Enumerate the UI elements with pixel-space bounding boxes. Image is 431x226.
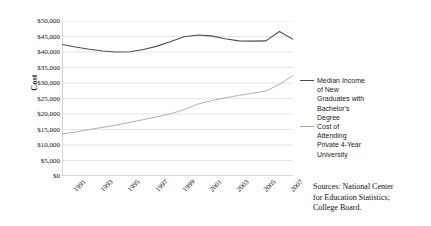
y-axis-tick-label: $15,000 <box>26 126 60 134</box>
x-axis-tick-label: 1995 <box>126 178 142 194</box>
x-axis-tick-label: 1997 <box>154 178 170 194</box>
x-axis-tick-label: 1993 <box>99 178 115 194</box>
legend-label: Cost of Attending Private 4-Year Univers… <box>317 122 428 159</box>
legend-entry: Median Income of New Graduates with Bach… <box>300 76 428 122</box>
legend-swatch-line-icon <box>300 126 314 127</box>
x-axis-tick-label: 2003 <box>235 178 251 194</box>
x-axis-tick-label: 2005 <box>262 178 278 194</box>
x-axis-tick-label: 2007 <box>290 178 306 194</box>
y-axis-tick-label: $5,000 <box>26 157 60 165</box>
x-axis-tick-label: 2001 <box>208 178 224 194</box>
y-axis-tick-label: $0 <box>26 172 60 180</box>
chart-legend: Median Income of New Graduates with Bach… <box>300 76 428 159</box>
y-axis-tick-label: $10,000 <box>26 141 60 149</box>
x-axis-tick-labels: 199119931995199719992001200320052007 <box>62 178 302 212</box>
x-axis-tick-label: 1999 <box>181 178 197 194</box>
y-axis-tick-label: $30,000 <box>26 79 60 87</box>
y-axis-tick-label: $25,000 <box>26 95 60 103</box>
y-axis-tick-label: $50,000 <box>26 17 60 25</box>
series-line <box>62 32 293 52</box>
y-axis-tick-label: $20,000 <box>26 110 60 118</box>
chart-figure: Cost $50,000$45,000$40,000$35,000$30,000… <box>0 0 431 226</box>
y-axis-tick-label: $40,000 <box>26 48 60 56</box>
chart-plot-svg <box>62 21 293 176</box>
gridlines <box>62 21 293 161</box>
legend-swatch-line-icon <box>300 80 314 81</box>
plot-area <box>62 21 293 176</box>
source-note: Sources: National Center for Education S… <box>313 182 431 214</box>
y-axis-tick-labels: $50,000$45,000$40,000$35,000$30,000$25,0… <box>26 21 60 176</box>
y-axis-tick-label: $45,000 <box>26 33 60 41</box>
series-line <box>62 76 293 134</box>
x-axis-tick-label: 1991 <box>72 178 88 194</box>
legend-entry: Cost of Attending Private 4-Year Univers… <box>300 122 428 159</box>
y-axis-tick-label: $35,000 <box>26 64 60 72</box>
legend-label: Median Income of New Graduates with Bach… <box>317 76 428 122</box>
